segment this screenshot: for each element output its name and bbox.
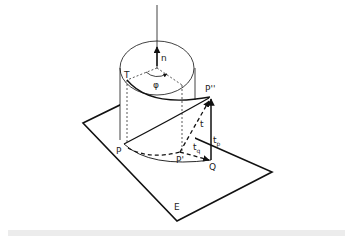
label-T: T [123, 70, 130, 80]
label-Q: Q [209, 162, 216, 172]
label-P-prime: P' [176, 155, 184, 165]
label-P-double-prime: P'' [205, 84, 215, 94]
cylinder-helix-diagram: n T φ P'' t tp tq P P' Q E [0, 0, 357, 238]
label-t: t [200, 119, 204, 129]
label-n: n [161, 53, 167, 63]
caption-bar [8, 230, 345, 236]
label-phi: φ [153, 80, 159, 90]
label-E: E [174, 202, 180, 212]
label-P: P [116, 146, 122, 156]
